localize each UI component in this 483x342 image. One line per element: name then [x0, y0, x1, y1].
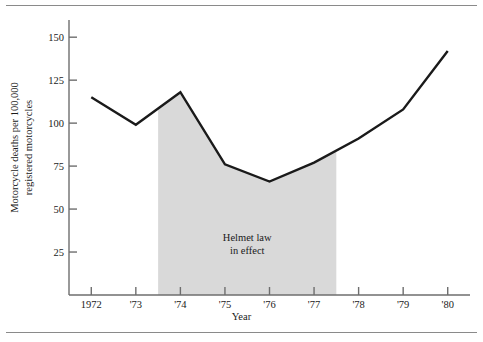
y-axis-tick-label: 125: [24, 75, 64, 86]
x-axis-tick-label: '79: [397, 299, 409, 310]
y-axis-tick-label: 150: [24, 32, 64, 43]
chart-plot-area: [0, 0, 483, 342]
y-axis-tick-labels: 255075100125150: [22, 0, 64, 342]
x-axis-label: Year: [0, 311, 483, 322]
figure-motorcycle-deaths: Motorcycle deaths per 100,000 registered…: [0, 0, 483, 342]
y-axis-label-line1: Motorcycle deaths per 100,000: [8, 82, 22, 213]
x-axis-tick-label: '76: [263, 299, 275, 310]
x-axis-tick-label: '80: [442, 299, 454, 310]
helmet-law-annotation: Helmet law in effect: [223, 232, 272, 257]
x-axis-tick-label: '74: [174, 299, 186, 310]
x-axis-tick-label: 1972: [81, 299, 102, 310]
y-axis-tick-label: 100: [24, 118, 64, 129]
x-axis-tick-label: '78: [352, 299, 364, 310]
x-axis-tick-label: '75: [219, 299, 231, 310]
x-axis-tick-label: '77: [308, 299, 320, 310]
x-axis-tick-label: '73: [130, 299, 142, 310]
y-axis-tick-label: 50: [24, 204, 64, 215]
y-axis-tick-label: 75: [24, 161, 64, 172]
helmet-law-annotation-line1: Helmet law: [223, 232, 272, 245]
helmet-law-shaded-band: [158, 92, 336, 295]
helmet-law-annotation-line2: in effect: [223, 245, 272, 258]
data-line-motorcycle-death-rate: [91, 51, 447, 182]
y-axis-tick-label: 25: [24, 247, 64, 258]
